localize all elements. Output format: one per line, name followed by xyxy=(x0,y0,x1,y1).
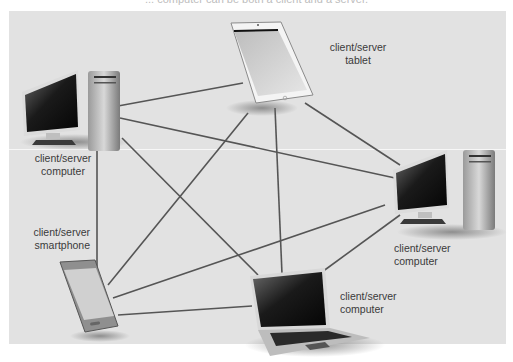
label-line1: client/server xyxy=(22,226,90,239)
edge-tlcomputer-laptop xyxy=(122,138,258,275)
edge-tablet-rightcomputer xyxy=(305,103,400,165)
label-line1: client/server xyxy=(394,242,484,255)
node-label-smartphone: client/server smartphone xyxy=(22,226,90,252)
edge-tablet-laptop xyxy=(275,108,282,274)
network-diagram xyxy=(0,0,513,362)
desktop-computer-icon xyxy=(20,70,130,151)
edge-rightcomputer-laptop xyxy=(322,215,400,272)
node-label-tablet: client/server tablet xyxy=(318,41,398,67)
label-line2: computer xyxy=(394,255,484,268)
node-label-tl-computer: client/server computer xyxy=(18,152,108,178)
label-line2: computer xyxy=(340,303,430,316)
smartphone-icon xyxy=(60,260,130,342)
label-line1: client/server xyxy=(318,41,398,54)
node-label-right-computer: client/server computer xyxy=(394,242,484,268)
label-line1: client/server xyxy=(340,290,430,303)
label-line2: computer xyxy=(18,165,108,178)
label-line1: client/server xyxy=(18,152,108,165)
tablet-icon xyxy=(226,22,313,116)
network-edges xyxy=(97,83,400,315)
label-line2: tablet xyxy=(318,54,398,67)
desktop-computer-icon xyxy=(393,150,507,240)
edge-smartphone-laptop xyxy=(118,306,252,315)
node-label-laptop: client/server computer xyxy=(340,290,430,316)
edge-rightcomputer-smartphone xyxy=(113,205,385,298)
edge-tlcomputer-rightcomputer xyxy=(120,118,395,178)
label-line2: smartphone xyxy=(22,239,90,252)
edge-tlcomputer-tablet xyxy=(118,83,243,106)
